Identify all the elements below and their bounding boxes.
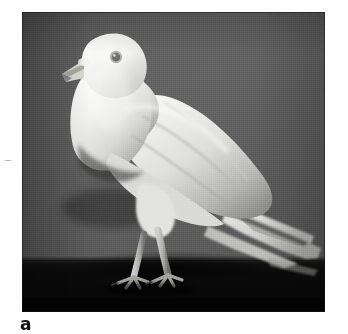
pigeon-photo-illustration: [22, 12, 325, 312]
margin-registration-tick: [5, 160, 11, 161]
white-pouter-pigeon-photo: [22, 12, 325, 312]
figure-plate: a: [0, 0, 348, 334]
photograph-frame: [22, 12, 325, 312]
figure-caption-label: a: [20, 315, 31, 334]
